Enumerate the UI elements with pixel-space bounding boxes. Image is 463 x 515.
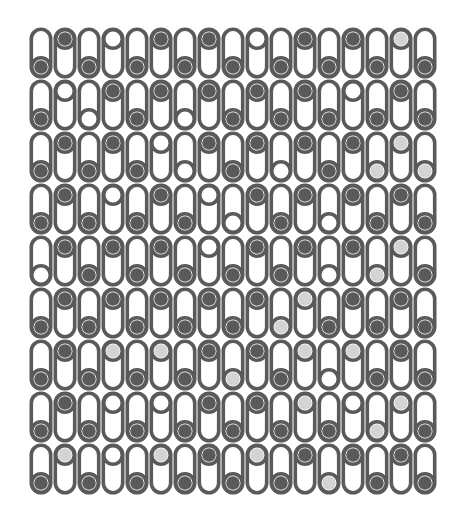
pill-cell[interactable] [55, 341, 74, 388]
pill-cell[interactable] [31, 289, 50, 336]
pill-cell[interactable] [415, 393, 434, 440]
pill-cell[interactable] [223, 133, 242, 180]
pill-cell[interactable] [103, 29, 122, 76]
pill-cell[interactable] [31, 393, 50, 440]
pill-cell[interactable] [319, 185, 338, 232]
pill-cell[interactable] [415, 29, 434, 76]
pill-cell[interactable] [79, 237, 98, 284]
pill-cell[interactable] [151, 393, 170, 440]
pill-cell[interactable] [391, 393, 410, 440]
pill-cell[interactable] [271, 237, 290, 284]
pill-cell[interactable] [127, 341, 146, 388]
pill-cell[interactable] [199, 237, 218, 284]
pill-cell[interactable] [319, 133, 338, 180]
pill-cell[interactable] [271, 445, 290, 492]
pill-cell[interactable] [319, 29, 338, 76]
pill-cell[interactable] [343, 393, 362, 440]
pill-cell[interactable] [199, 445, 218, 492]
pill-cell[interactable] [127, 445, 146, 492]
pill-cell[interactable] [55, 289, 74, 336]
pill-cell[interactable] [415, 81, 434, 128]
pill-cell[interactable] [31, 81, 50, 128]
pill-cell[interactable] [367, 81, 386, 128]
pill-cell[interactable] [199, 393, 218, 440]
pill-cell[interactable] [391, 341, 410, 388]
pill-cell[interactable] [247, 81, 266, 128]
pill-cell[interactable] [103, 289, 122, 336]
pill-cell[interactable] [199, 133, 218, 180]
pill-cell[interactable] [55, 133, 74, 180]
pill-cell[interactable] [199, 185, 218, 232]
pill-cell[interactable] [295, 185, 314, 232]
pill-cell[interactable] [223, 393, 242, 440]
pill-cell[interactable] [295, 445, 314, 492]
pill-cell[interactable] [151, 289, 170, 336]
pill-cell[interactable] [391, 133, 410, 180]
pill-cell[interactable] [319, 237, 338, 284]
pill-cell[interactable] [247, 445, 266, 492]
pill-cell[interactable] [271, 289, 290, 336]
pill-cell[interactable] [343, 81, 362, 128]
pill-cell[interactable] [319, 81, 338, 128]
pill-cell[interactable] [103, 393, 122, 440]
pill-cell[interactable] [415, 133, 434, 180]
pill-cell[interactable] [367, 393, 386, 440]
pill-cell[interactable] [343, 341, 362, 388]
pill-cell[interactable] [55, 237, 74, 284]
pill-cell[interactable] [55, 185, 74, 232]
pill-cell[interactable] [391, 29, 410, 76]
pill-cell[interactable] [271, 133, 290, 180]
pill-cell[interactable] [175, 341, 194, 388]
pill-cell[interactable] [103, 341, 122, 388]
pill-cell[interactable] [271, 341, 290, 388]
pill-cell[interactable] [79, 29, 98, 76]
pill-cell[interactable] [391, 81, 410, 128]
pill-cell[interactable] [271, 185, 290, 232]
pill-cell[interactable] [151, 341, 170, 388]
pill-cell[interactable] [127, 289, 146, 336]
pill-cell[interactable] [367, 445, 386, 492]
pill-cell[interactable] [343, 289, 362, 336]
pill-cell[interactable] [415, 237, 434, 284]
pill-cell[interactable] [319, 289, 338, 336]
pill-cell[interactable] [295, 29, 314, 76]
pill-cell[interactable] [79, 393, 98, 440]
pill-cell[interactable] [151, 133, 170, 180]
pill-cell[interactable] [31, 29, 50, 76]
pill-cell[interactable] [415, 289, 434, 336]
pill-cell[interactable] [127, 133, 146, 180]
pill-cell[interactable] [367, 341, 386, 388]
pill-cell[interactable] [103, 185, 122, 232]
pill-cell[interactable] [175, 81, 194, 128]
pill-cell[interactable] [31, 237, 50, 284]
pill-cell[interactable] [31, 133, 50, 180]
pill-cell[interactable] [55, 81, 74, 128]
pill-cell[interactable] [247, 289, 266, 336]
pill-cell[interactable] [223, 341, 242, 388]
pill-cell[interactable] [319, 445, 338, 492]
pill-cell[interactable] [127, 237, 146, 284]
pill-cell[interactable] [343, 237, 362, 284]
pill-cell[interactable] [295, 289, 314, 336]
pill-cell[interactable] [271, 81, 290, 128]
pill-cell[interactable] [343, 29, 362, 76]
pill-cell[interactable] [199, 341, 218, 388]
pill-cell[interactable] [343, 133, 362, 180]
pill-cell[interactable] [295, 393, 314, 440]
pill-cell[interactable] [79, 133, 98, 180]
pill-cell[interactable] [199, 81, 218, 128]
pill-cell[interactable] [247, 29, 266, 76]
pill-cell[interactable] [295, 237, 314, 284]
pill-cell[interactable] [175, 393, 194, 440]
pill-cell[interactable] [55, 29, 74, 76]
pill-cell[interactable] [151, 445, 170, 492]
pill-cell[interactable] [151, 29, 170, 76]
pill-cell[interactable] [151, 81, 170, 128]
pill-cell[interactable] [247, 341, 266, 388]
pill-cell[interactable] [247, 393, 266, 440]
pill-cell[interactable] [55, 393, 74, 440]
pill-cell[interactable] [343, 445, 362, 492]
pill-cell[interactable] [415, 341, 434, 388]
pill-cell[interactable] [175, 29, 194, 76]
pill-cell[interactable] [223, 289, 242, 336]
